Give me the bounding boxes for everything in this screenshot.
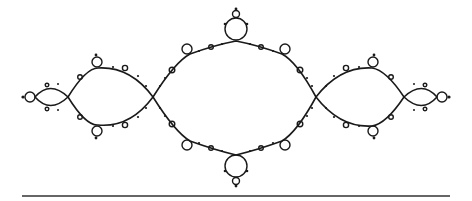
fractal-drawing	[0, 0, 472, 201]
figure-canvas	[0, 0, 472, 201]
fractal-bulbs	[21, 8, 450, 188]
